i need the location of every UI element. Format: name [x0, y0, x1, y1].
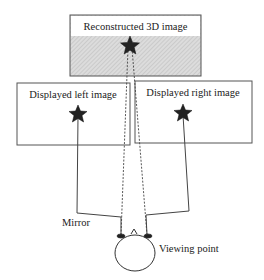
left-eye-icon [117, 234, 125, 238]
displayed-right-image-label: Displayed right image [146, 87, 240, 98]
mirror-label: Mirror [62, 217, 90, 228]
nose-icon [131, 229, 137, 234]
viewer-head-icon [115, 229, 155, 271]
viewing-point-label: Viewing point [159, 243, 219, 254]
stereo-viewing-diagram: Reconstructed 3D image Displayed left im… [0, 0, 264, 280]
displayed-right-image-box: Displayed right image [135, 81, 252, 143]
reconstructed-3d-image-label: Reconstructed 3D image [84, 21, 188, 32]
displayed-left-image-label: Displayed left image [29, 89, 117, 100]
right-eye-icon [144, 234, 152, 238]
